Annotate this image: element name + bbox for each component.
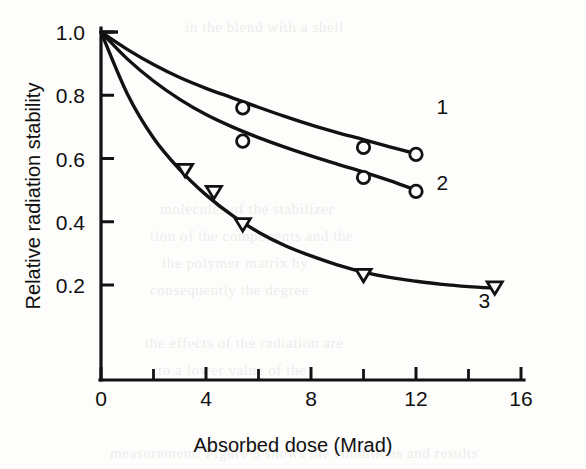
- x-tick-label: 0: [95, 387, 107, 410]
- curve-line-2: [101, 32, 416, 190]
- x-axis-title: Absorbed dose (Mrad): [194, 434, 393, 456]
- y-tick-label: 0.6: [56, 148, 85, 171]
- y-tick-label: 0.2: [56, 274, 85, 297]
- y-axis-title: Relative radiation stability: [22, 83, 44, 310]
- x-tick-label: 16: [509, 387, 532, 410]
- chart-axes: [100, 28, 524, 380]
- x-tick-label: 12: [404, 387, 427, 410]
- figure-page: in the blend with a shellmolecules of th…: [0, 0, 586, 469]
- data-marker-open-circle-series-2: [410, 185, 422, 197]
- series-label-3: 3: [478, 289, 490, 312]
- y-tick-label: 1.0: [56, 21, 85, 44]
- curve-line-1: [101, 32, 416, 154]
- y-tick-label: 0.8: [56, 84, 85, 107]
- x-tick-label: 4: [200, 387, 212, 410]
- series-label-2: 2: [436, 171, 448, 194]
- radiation-stability-chart: 0.20.40.60.81.00481216 123 Absorbed dose…: [0, 0, 586, 469]
- data-marker-open-circle-series-1: [410, 148, 422, 160]
- data-marker-open-circle-series-2: [357, 171, 369, 183]
- chart-curves: [101, 32, 495, 288]
- data-marker-open-circle-series-1: [357, 141, 369, 153]
- data-marker-open-triangle-down-series-3: [235, 219, 250, 231]
- curve-line-3: [101, 32, 495, 288]
- data-marker-open-triangle-down-series-3: [177, 164, 192, 176]
- series-label-1: 1: [436, 95, 448, 118]
- x-tick-label: 8: [305, 387, 317, 410]
- chart-series-labels: 123: [436, 95, 490, 312]
- data-marker-open-triangle-down-series-3: [356, 269, 371, 281]
- chart-tick-labels: 0.20.40.60.81.00481216: [56, 21, 533, 410]
- data-marker-open-circle-series-2: [237, 135, 249, 147]
- y-tick-label: 0.4: [56, 211, 86, 234]
- data-marker-open-circle-series-1: [237, 102, 249, 114]
